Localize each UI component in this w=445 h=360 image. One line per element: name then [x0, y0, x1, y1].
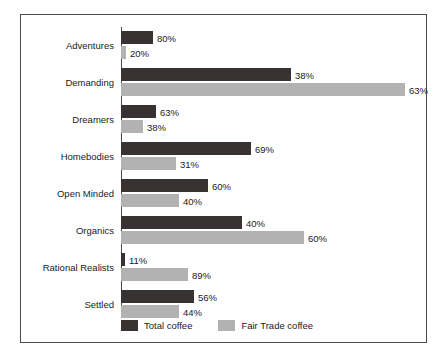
plot-area: Adventures 80% 20% Demanding 38%: [21, 15, 426, 342]
category-label: Settled: [21, 299, 114, 309]
bar-fair-trade-coffee[interactable]: [121, 157, 176, 170]
legend-swatch-icon: [218, 320, 235, 331]
bar-value-label: 60%: [208, 180, 231, 191]
row-bars: 11% 89%: [121, 249, 426, 286]
bar-value-label: 11%: [125, 254, 147, 265]
legend-label: Total coffee: [144, 320, 192, 331]
row-bars: 40% 60%: [121, 212, 426, 249]
bar-total-coffee[interactable]: [121, 216, 242, 229]
bar-fair-trade-coffee[interactable]: [121, 194, 179, 207]
bar-fair-trade-coffee[interactable]: [121, 120, 143, 133]
legend-item-total-coffee[interactable]: Total coffee: [121, 320, 192, 331]
bar-fair-trade-coffee[interactable]: [121, 83, 405, 96]
row-bars: 80% 20%: [121, 27, 426, 64]
bar-value-label: 63%: [405, 84, 428, 95]
bar-value-label: 69%: [251, 143, 274, 154]
legend-item-fair-trade-coffee[interactable]: Fair Trade coffee: [218, 320, 313, 331]
bar-value-label: 40%: [179, 195, 202, 206]
bar-total-coffee[interactable]: [121, 142, 251, 155]
category-label: Adventures: [21, 40, 114, 50]
category-label: Homebodies: [21, 151, 114, 161]
category-label: Organics: [21, 225, 114, 235]
bar-value-label: 38%: [143, 121, 166, 132]
row-bars: 60% 40%: [121, 175, 426, 212]
bar-total-coffee[interactable]: [121, 68, 291, 81]
bar-fair-trade-coffee[interactable]: [121, 268, 188, 281]
bar-value-label: 38%: [291, 69, 314, 80]
chart-row: Homebodies 69% 31%: [21, 138, 426, 175]
bar-value-label: 89%: [188, 269, 211, 280]
category-label: Rational Realists: [21, 262, 114, 272]
bar-fair-trade-coffee[interactable]: [121, 231, 304, 244]
chart-row: Rational Realists 11% 89%: [21, 249, 426, 286]
bar-value-label: 60%: [304, 232, 327, 243]
chart-legend: Total coffee Fair Trade coffee: [121, 315, 313, 335]
bar-value-label: 63%: [156, 106, 179, 117]
chart-row: Demanding 38% 63%: [21, 64, 426, 101]
legend-label: Fair Trade coffee: [241, 320, 313, 331]
chart-row: Dreamers 63% 38%: [21, 101, 426, 138]
bar-value-label: 80%: [153, 32, 176, 43]
bar-value-label: 40%: [242, 217, 265, 228]
row-bars: 38% 63%: [121, 64, 426, 101]
chart-row: Adventures 80% 20%: [21, 27, 426, 64]
legend-swatch-icon: [121, 320, 138, 331]
bar-value-label: 20%: [126, 47, 149, 58]
category-label: Demanding: [21, 77, 114, 87]
category-label: Open Minded: [21, 188, 114, 198]
row-bars: 63% 38%: [121, 101, 426, 138]
bar-value-label: 31%: [176, 158, 199, 169]
bar-total-coffee[interactable]: [121, 105, 156, 118]
row-bars: 69% 31%: [121, 138, 426, 175]
bar-value-label: 56%: [194, 291, 217, 302]
chart-row: Organics 40% 60%: [21, 212, 426, 249]
bar-total-coffee[interactable]: [121, 179, 208, 192]
chart-frame: Adventures 80% 20% Demanding 38%: [20, 14, 427, 343]
category-label: Dreamers: [21, 114, 114, 124]
bar-total-coffee[interactable]: [121, 290, 194, 303]
chart-row: Open Minded 60% 40%: [21, 175, 426, 212]
bar-total-coffee[interactable]: [121, 31, 153, 44]
